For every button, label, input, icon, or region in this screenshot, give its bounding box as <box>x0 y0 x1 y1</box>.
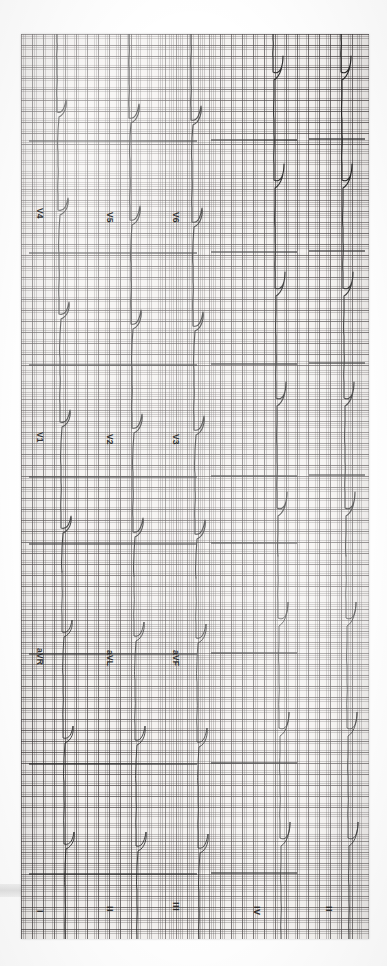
lead-label-avr: aVR <box>35 648 45 665</box>
lead-label-avl: aVL <box>105 650 115 666</box>
lead-label-iii: III <box>171 902 181 911</box>
lead-label-v1: V1 <box>35 432 45 443</box>
lead-label-rhythm-iv: IV <box>252 906 262 916</box>
lead-label-rhythm-ii: II <box>324 906 334 912</box>
lead-label-v5: V5 <box>105 212 115 223</box>
lead-label-avf: aVF <box>171 650 181 666</box>
lead-label-v3: V3 <box>171 434 181 445</box>
lead-label-v4: V4 <box>35 208 45 219</box>
ecg-scan-canvas: V4 V5 V6 V1 V2 V3 aVR aVL aVF I II III I… <box>0 0 387 966</box>
lead-label-ii: II <box>105 906 115 912</box>
lead-label-v6: V6 <box>171 212 181 223</box>
lead-label-i: I <box>35 910 45 913</box>
ecg-grid <box>21 34 369 939</box>
ecg-paper <box>21 34 369 939</box>
underlying-sheet-edge <box>0 884 23 897</box>
lead-label-v2: V2 <box>105 434 115 445</box>
